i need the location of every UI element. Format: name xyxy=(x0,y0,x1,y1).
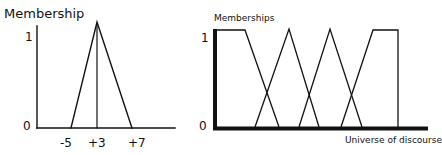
left-x-tick-plus3: +3 xyxy=(88,136,106,150)
left-y-tick-1: 1 xyxy=(25,30,33,44)
left-chart xyxy=(37,22,175,128)
right-chart-xlabel: Universe of discourse xyxy=(345,135,442,145)
membership-set-3 xyxy=(299,29,362,127)
left-y-tick-0: 0 xyxy=(23,119,31,133)
membership-set-2 xyxy=(255,29,319,127)
membership-set-1 xyxy=(215,30,279,127)
triangular-membership-function xyxy=(71,22,132,128)
right-y-tick-0: 0 xyxy=(199,119,207,133)
left-x-tick-plus7: +7 xyxy=(128,136,146,150)
membership-set-4 xyxy=(341,30,398,127)
right-y-tick-1: 1 xyxy=(201,31,209,45)
right-chart xyxy=(213,29,428,130)
fuzzy-membership-diagram xyxy=(0,0,442,155)
left-chart-ylabel: Membership xyxy=(4,6,84,21)
left-x-tick-minus5: -5 xyxy=(60,136,72,150)
right-chart-ylabel: Memberships xyxy=(214,13,274,23)
